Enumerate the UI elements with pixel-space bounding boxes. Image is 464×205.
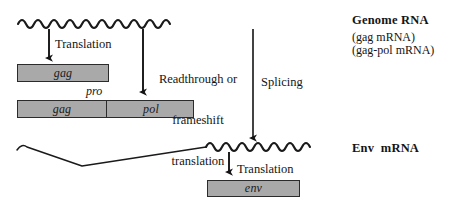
readthrough-line-2: frameshift <box>152 114 244 127</box>
orf-label-gag: gag <box>54 66 73 81</box>
orf-label-env: env <box>245 181 262 196</box>
readthrough-line-3: translation <box>152 155 244 168</box>
genome-rna-wavy-line <box>18 20 170 28</box>
splicing-label: Splicing <box>261 76 303 89</box>
genome-rna-alt-label-2: (gag-pol mRNA) <box>352 44 434 58</box>
readthrough-frameshift-label: Readthrough or frameshift translation <box>152 47 244 194</box>
readthrough-line-1: Readthrough or <box>152 73 244 86</box>
orf-box-gag: gag <box>17 64 109 82</box>
translation-gag-label: Translation <box>55 38 112 51</box>
orf-label-gag-pol-gag: gag <box>18 102 106 117</box>
retroviral-expression-diagram: gag pro gag pol env Translation Readthro… <box>0 0 464 205</box>
orf-label-pro: pro <box>86 85 102 98</box>
env-mrna-label: Env mRNA <box>352 142 419 155</box>
translation-env-label: Translation <box>237 163 294 176</box>
genome-rna-label: Genome RNA <box>352 14 429 27</box>
